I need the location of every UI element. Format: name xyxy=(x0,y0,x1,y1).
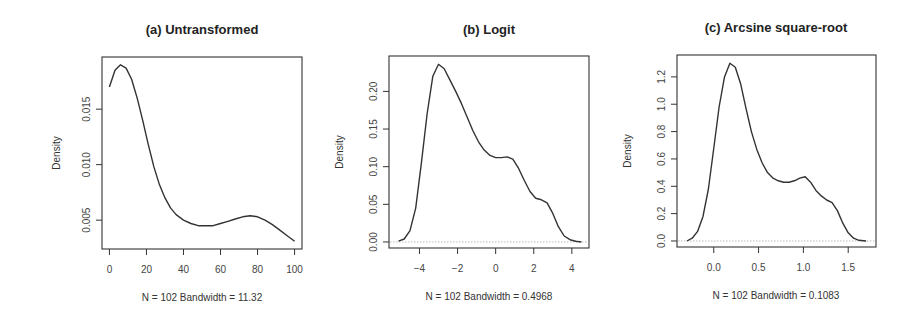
panel-b-axes: −4−20240.000.050.100.150.20 xyxy=(368,81,575,274)
x-tick-label: 20 xyxy=(141,264,153,275)
x-tick-label: 4 xyxy=(569,263,575,274)
panel-a-ylabel: Density xyxy=(51,136,62,169)
x-tick-label: −2 xyxy=(452,263,464,274)
x-tick-label: 0.5 xyxy=(752,262,766,273)
x-tick-label: 0 xyxy=(493,263,499,274)
x-tick-label: 100 xyxy=(286,264,303,275)
x-tick-label: 0.0 xyxy=(707,262,721,273)
x-tick-label: 60 xyxy=(215,264,227,275)
y-tick-label: 0.010 xyxy=(81,152,92,177)
panel-c-title: (c) Arcsine square-root xyxy=(705,20,848,35)
y-tick-label: 1.2 xyxy=(656,69,667,83)
y-tick-label: 0.6 xyxy=(656,152,667,166)
x-tick-label: 1.0 xyxy=(796,262,810,273)
y-tick-label: 0.2 xyxy=(656,206,667,220)
x-tick-label: 80 xyxy=(252,264,264,275)
panel-c-xlabel: N = 102 Bandwidth = 0.1083 xyxy=(713,290,840,301)
y-tick-label: 0.15 xyxy=(368,119,379,139)
panel-a-frame xyxy=(102,57,302,249)
panel-a-density-curve xyxy=(109,65,294,241)
y-tick-label: 0.005 xyxy=(81,207,92,232)
panel-c-axes: 0.00.51.01.50.00.20.40.60.81.01.2 xyxy=(656,69,856,273)
x-tick-label: 1.5 xyxy=(841,262,855,273)
y-tick-label: 1.0 xyxy=(656,97,667,111)
y-tick-label: 0.00 xyxy=(368,232,379,252)
panel-b-density-curve xyxy=(399,64,582,242)
panel-a-axes: 0204060801000.0050.0100.015 xyxy=(81,96,303,275)
panel-b-ylabel: Density xyxy=(334,135,345,168)
panel-a-xlabel: N = 102 Bandwidth = 11.32 xyxy=(142,292,263,303)
y-tick-label: 0.0 xyxy=(656,234,667,248)
panel-c-frame xyxy=(677,55,876,247)
panel-b-frame xyxy=(389,56,589,248)
panel-b-xlabel: N = 102 Bandwidth = 0.4968 xyxy=(426,291,553,302)
y-tick-label: 0.015 xyxy=(81,96,92,121)
y-tick-label: 0.20 xyxy=(368,81,379,101)
y-tick-label: 0.8 xyxy=(656,124,667,138)
figure: (a) Untransformed Density N = 102 Bandwi… xyxy=(0,0,917,330)
y-tick-label: 0.05 xyxy=(368,194,379,214)
panel-b: (b) Logit Density N = 102 Bandwidth = 0.… xyxy=(334,22,589,302)
panel-c-density-curve xyxy=(687,63,866,241)
x-tick-label: −4 xyxy=(414,263,426,274)
y-tick-label: 0.4 xyxy=(656,179,667,193)
panel-c: (c) Arcsine square-root Density N = 102 … xyxy=(622,20,876,301)
x-tick-label: 0 xyxy=(107,264,113,275)
panel-b-title: (b) Logit xyxy=(463,22,516,37)
x-tick-label: 2 xyxy=(531,263,537,274)
y-tick-label: 0.10 xyxy=(368,157,379,177)
panel-a-title: (a) Untransformed xyxy=(146,22,259,37)
x-tick-label: 40 xyxy=(178,264,190,275)
panel-c-ylabel: Density xyxy=(622,134,633,167)
panel-a: (a) Untransformed Density N = 102 Bandwi… xyxy=(51,22,303,303)
